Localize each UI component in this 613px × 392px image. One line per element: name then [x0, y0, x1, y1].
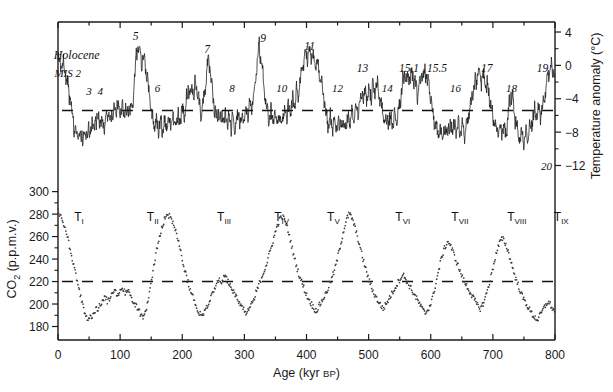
co2-data-point: [365, 266, 367, 268]
co2-data-point: [198, 313, 200, 315]
co2-data-point: [349, 212, 351, 214]
co2-data-point: [316, 311, 318, 313]
co2-data-point: [384, 302, 386, 304]
mis-trough-label-16: 16: [450, 82, 462, 94]
co2-data-point: [306, 292, 308, 294]
co2-data-point: [494, 261, 496, 263]
co2-data-point: [297, 268, 299, 270]
co2-data-point: [423, 308, 425, 310]
co2-data-point: [340, 243, 342, 245]
co2-data-point: [487, 289, 489, 291]
co2-data-point: [474, 299, 476, 301]
co2-data-point: [433, 292, 435, 294]
termination-numeral-VII: VII: [459, 217, 469, 226]
co2-data-point: [213, 291, 215, 293]
co2-data-point: [123, 290, 125, 292]
co2-data-point: [432, 295, 434, 297]
co2-data-point: [507, 249, 509, 251]
x-tick-label: 700: [483, 348, 503, 362]
co2-data-point: [106, 303, 108, 305]
co2-data-point: [305, 294, 307, 296]
co2-data-point: [344, 228, 346, 230]
co2-data-point: [239, 301, 241, 303]
co2-data-point: [221, 283, 223, 285]
co2-data-point: [475, 301, 477, 303]
mis-peak-label-15.5: 15.5: [427, 62, 447, 74]
co2-data-point: [215, 285, 217, 287]
co2-data-point: [529, 306, 531, 308]
co2-data-point: [172, 220, 174, 222]
co2-data-point: [257, 287, 259, 289]
co2-data-point: [252, 300, 254, 302]
co2-data-point: [142, 318, 144, 320]
mis-trough-label-6: 6: [155, 82, 161, 94]
co2-data-point: [332, 271, 334, 273]
co2-data-point: [517, 283, 519, 285]
co2-data-point: [459, 269, 461, 271]
co2-data-point: [290, 240, 292, 242]
co2-data-point: [65, 230, 67, 232]
co2-data-point: [504, 244, 506, 246]
co2-data-point: [208, 303, 210, 305]
co2-data-point: [452, 249, 454, 251]
co2-data-point: [171, 222, 173, 224]
co2-data-point: [501, 236, 503, 238]
co2-data-point: [167, 214, 169, 216]
co2-data-point: [181, 260, 183, 262]
co2-data-point: [482, 302, 484, 304]
co2-data-point: [553, 309, 555, 311]
co2-data-point: [218, 279, 220, 281]
co2-data-point: [542, 309, 544, 311]
co2-data-point: [309, 303, 311, 305]
co2-data-point: [320, 303, 322, 305]
co2-data-point: [330, 282, 332, 284]
co2-data-point: [176, 238, 178, 240]
temperature-axis-title: Temperature anomaly (°C): [589, 33, 603, 180]
co2-data-point: [154, 260, 156, 262]
x-tick-label: 200: [172, 348, 192, 362]
climate-chart-svg: 40−4−8−12 300280260240220200180 57911131…: [0, 0, 613, 392]
co2-data-point: [237, 300, 239, 302]
co2-data-point: [77, 284, 79, 286]
co2-data-point: [262, 274, 264, 276]
co2-data-point: [379, 302, 381, 304]
co2-data-point: [261, 276, 263, 278]
co2-data-point: [141, 313, 143, 315]
co2-data-point: [347, 217, 349, 219]
co2-data-point: [80, 294, 82, 296]
co2-data-point: [352, 217, 354, 219]
co2-data-point: [263, 273, 265, 275]
co2-data-point: [434, 291, 436, 293]
co2-data-point: [59, 215, 61, 217]
co2-data-point: [324, 297, 326, 299]
co2-data-point: [494, 259, 496, 261]
co2-data-point: [470, 293, 472, 295]
co2-data-point: [99, 303, 101, 305]
co2-data-point: [61, 217, 63, 219]
co2-data-point: [407, 282, 409, 284]
co2-data-point: [462, 274, 464, 276]
co2-data-point: [348, 211, 350, 213]
mis-trough-label-12: 12: [332, 82, 344, 94]
co2-data-point: [147, 301, 149, 303]
co2-data-point: [335, 263, 337, 265]
co2-data-point: [356, 230, 358, 232]
co2-tick-label: 240: [29, 253, 49, 267]
co2-data-point: [360, 248, 362, 250]
temp-tick-label: −12: [565, 159, 586, 173]
mis-trough-label-4: 4: [97, 85, 103, 97]
x-tick-label: 500: [359, 348, 379, 362]
co2-data-point: [124, 288, 126, 290]
co2-data-point: [523, 297, 525, 299]
co2-data-point: [171, 218, 173, 220]
co2-data-point: [362, 257, 364, 259]
co2-data-point: [554, 311, 556, 313]
co2-data-point: [180, 249, 182, 251]
co2-data-point: [481, 304, 483, 306]
co2-data-point: [149, 291, 151, 293]
mis-trough-label-3: 3: [85, 85, 92, 97]
co2-data-point: [189, 288, 191, 290]
mis-peak-label-13: 13: [357, 62, 369, 74]
co2-data-point: [246, 311, 248, 313]
co2-data-point: [338, 250, 340, 252]
